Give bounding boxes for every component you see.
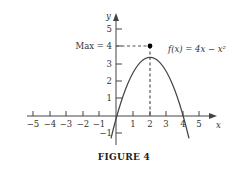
- x-tick-label: 5: [196, 119, 201, 129]
- function-label: f(x) = 4x − x²: [167, 44, 227, 54]
- y-tick-label: −1: [99, 128, 112, 138]
- y-axis-label: y: [105, 11, 111, 21]
- x-tick-label: −2: [77, 119, 90, 129]
- y-tick-label: 3: [107, 59, 112, 69]
- max-label: Max = 4: [76, 41, 113, 51]
- figure-caption: FIGURE 4: [98, 152, 150, 162]
- figure-canvas: x y −5 −4 −3 −2 −1 1 2 3 4 5: [0, 0, 248, 169]
- x-axis-label: x: [216, 120, 221, 130]
- vertex-point: [148, 44, 153, 49]
- x-tick-label: 3: [163, 119, 168, 129]
- y-tick-label: 1: [107, 93, 112, 103]
- y-tick-label: 2: [107, 76, 112, 86]
- y-tick-label: 5: [107, 24, 112, 34]
- x-axis-arrow-icon: [209, 113, 217, 119]
- x-tick-label: −5: [27, 119, 40, 129]
- x-tick-label: −4: [44, 119, 57, 129]
- x-tick-label: 1: [130, 119, 135, 129]
- y-axis-arrow-icon: [113, 13, 119, 21]
- x-tick-label: 2: [147, 119, 152, 129]
- x-tick-label: −3: [60, 119, 73, 129]
